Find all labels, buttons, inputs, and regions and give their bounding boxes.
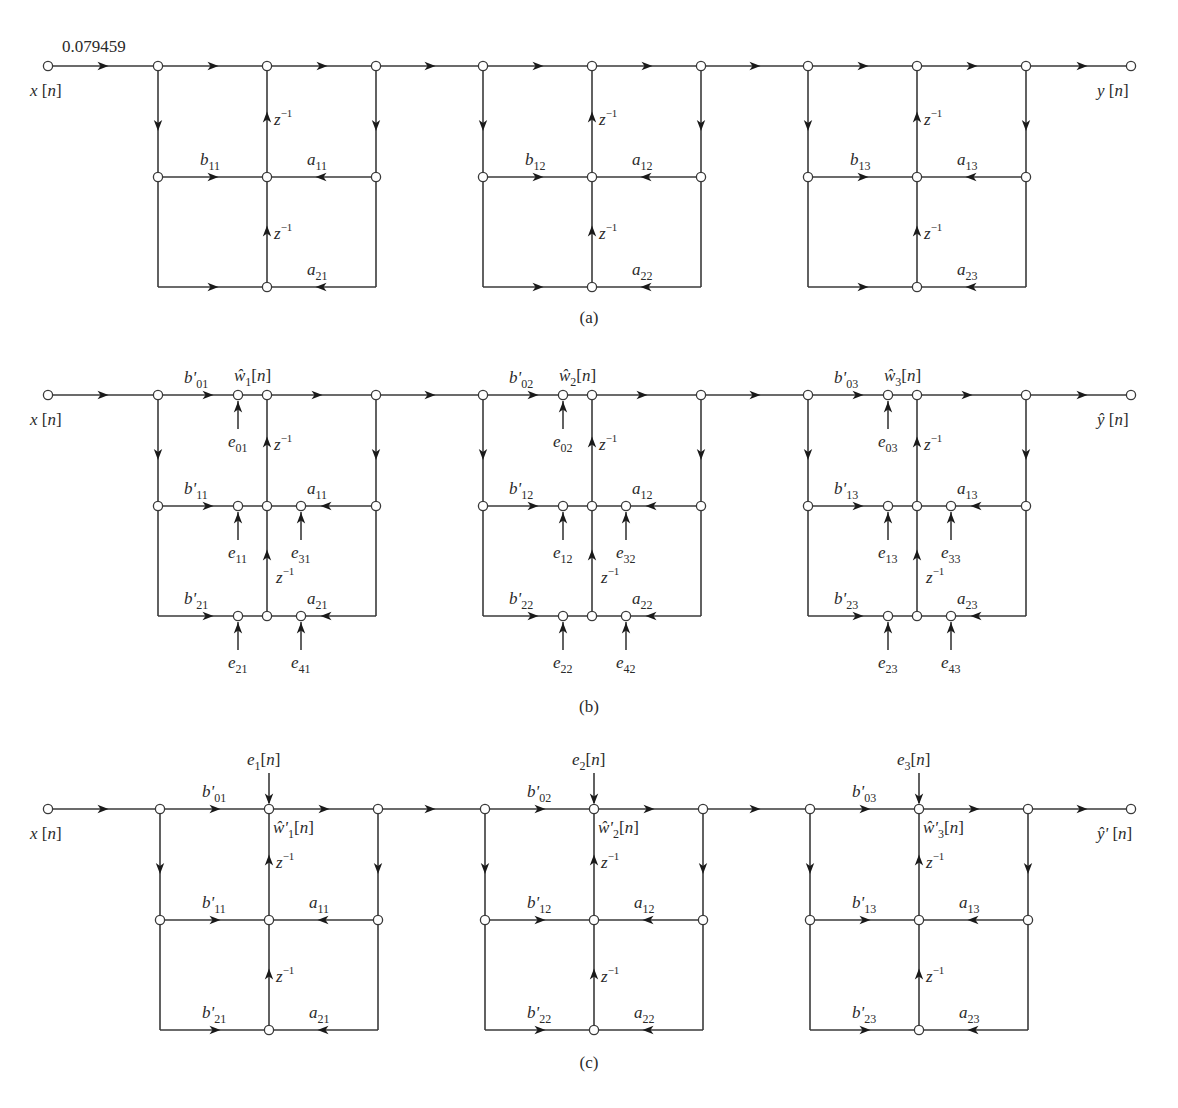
node-circle [914,1025,923,1034]
node-circle [262,390,271,399]
coefficient-a-label: a21 [307,589,328,612]
w-hat-prime-node-label: ŵ'1[n] [273,818,314,841]
node-circle [698,915,707,924]
coefficient-a-label: a22 [634,1003,655,1026]
coefficient-a-label: a11 [307,479,327,502]
coefficient-b-prime-label: b'02 [527,782,551,805]
node-circle [883,390,892,399]
delay-z-inverse-label: z−1 [923,432,942,454]
coefficient-b-prime-label: b'23 [852,1003,876,1026]
error-source-e-bot-left: e21 [228,653,248,676]
error-source-e-bot-right: e41 [291,653,311,676]
input-label: x [n] [29,81,62,100]
node-circle [480,915,489,924]
coefficient-b-prime-label: b'11 [202,893,226,916]
w-hat-prime-node-label: ŵ'3[n] [923,818,964,841]
delay-z-inverse-label: z−1 [273,221,292,243]
node-circle [233,390,242,399]
coefficient-b-prime-label: b'03 [834,368,858,391]
panel-c-combined-noise-model: x [n]ŷ' [n]z−1z−1b'01b'11b'21a11a21e1[n]… [29,750,1136,1072]
node-circle [262,501,271,510]
combined-error-input-label: e3[n] [897,750,930,773]
node-circle [1021,501,1030,510]
delay-z-inverse-label: z−1 [600,850,619,872]
delay-z-inverse-label: z−1 [598,221,617,243]
input-gain-label: 0.079459 [62,37,126,56]
coefficient-b-prime-label: b'13 [852,893,876,916]
node-circle [587,61,596,70]
delay-z-inverse-label: z−1 [600,964,619,986]
node-circle [589,915,598,924]
error-source-e-top: e01 [228,432,248,455]
node-circle [621,611,630,620]
coefficient-a-label: a22 [632,589,653,612]
node-circle [883,611,892,620]
node-circle [43,804,52,813]
w-hat-node-label: ŵ2[n] [559,366,596,389]
coefficient-a-label: a23 [957,589,978,612]
node-circle [589,1025,598,1034]
combined-error-input-label: e2[n] [572,750,605,773]
coefficient-b-prime-label: b'22 [527,1003,551,1026]
delay-z-inverse-label: z−1 [925,964,944,986]
coefficient-a-label: a21 [309,1003,330,1026]
node-circle [698,804,707,813]
coefficient-b-prime-label: b'22 [509,589,533,612]
section-3: z−1z−1b'03b'13b'23a13a23e03e13e33e23e43ŵ… [803,366,1030,676]
coefficient-b-prime-label: b'01 [202,782,226,805]
node-circle [296,501,305,510]
section-3: z−1z−1b13a13a23 [803,61,1030,291]
coefficient-a-label: a13 [957,479,978,502]
coefficient-a-label: a13 [957,150,978,173]
delay-z-inverse-label: z−1 [275,850,294,872]
input-label: x [n] [29,824,62,843]
error-source-e-bot-left: e23 [878,653,898,676]
node-circle [803,390,812,399]
node-circle [373,915,382,924]
node-circle [371,61,380,70]
coefficient-b-prime-label: b'21 [184,589,208,612]
node-circle [558,611,567,620]
error-source-e-mid-right: e31 [291,543,311,566]
node-circle [805,804,814,813]
node-circle [264,915,273,924]
node-circle [803,61,812,70]
node-circle [478,61,487,70]
output-label: ŷ [n] [1095,410,1129,429]
error-source-e-bot-right: e43 [941,653,961,676]
node-circle [1126,61,1135,70]
node-circle [296,611,305,620]
coefficient-b-prime-label: b'12 [509,479,533,502]
node-circle [696,501,705,510]
output-label: y [n] [1095,81,1129,100]
node-circle [1023,804,1032,813]
signal-flow-diagram: x [n]y [n]0.079459z−1z−1b11a11a21z−1z−1b… [0,0,1178,1108]
node-circle [371,501,380,510]
node-circle [478,501,487,510]
delay-z-inverse-label: z−1 [273,432,292,454]
coefficient-b-label: b12 [525,150,546,173]
node-circle [912,61,921,70]
node-circle [155,804,164,813]
coefficient-b-label: b11 [200,150,220,173]
input-label: x [n] [29,410,62,429]
section-1: z−1z−1b'01b'11b'21a11a21e01e11e31e21e41ŵ… [153,366,380,676]
node-circle [558,501,567,510]
delay-z-inverse-label: z−1 [600,565,619,587]
node-circle [803,501,812,510]
panel-b-quantization-noise-model: x [n]ŷ [n]z−1z−1b'01b'11b'21a11a21e01e11… [29,366,1136,716]
coefficient-a-label: a23 [959,1003,980,1026]
delay-z-inverse-label: z−1 [275,565,294,587]
node-circle [587,611,596,620]
node-circle [558,390,567,399]
node-circle [696,172,705,181]
node-circle [1126,804,1135,813]
error-source-e-mid-left: e13 [878,543,898,566]
delay-z-inverse-label: z−1 [598,107,617,129]
delay-z-inverse-label: z−1 [923,107,942,129]
node-circle [589,804,598,813]
delay-z-inverse-label: z−1 [923,221,942,243]
node-circle [233,611,242,620]
coefficient-a-label: a12 [632,479,653,502]
coefficient-b-prime-label: b'01 [184,368,208,391]
